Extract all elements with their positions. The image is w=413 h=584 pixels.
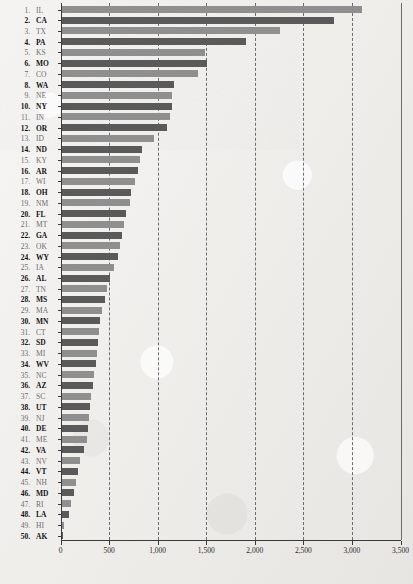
- y-axis-tick: [58, 461, 61, 462]
- bar-KY: [62, 156, 141, 163]
- bar-MS: [62, 296, 106, 303]
- state-label-MA: MA: [36, 307, 56, 315]
- state-label-OR: OR: [36, 125, 56, 133]
- bar-UT: [62, 403, 90, 410]
- y-axis-tick: [58, 364, 61, 365]
- y-axis-tick: [58, 353, 61, 354]
- x-axis-label-3500: 3,500: [392, 547, 409, 555]
- rank-label-29: 29.: [8, 307, 30, 315]
- rank-label-32: 32.: [8, 339, 30, 347]
- state-label-VA: VA: [36, 447, 56, 455]
- y-axis-tick: [58, 128, 61, 129]
- x-axis-label-500: 500: [103, 547, 114, 555]
- y-axis-tick: [58, 278, 61, 279]
- rank-label-43: 43.: [8, 458, 30, 466]
- y-axis-tick: [58, 257, 61, 258]
- state-label-ND: ND: [36, 146, 56, 154]
- rank-label-4: 4.: [8, 39, 30, 47]
- state-label-PA: PA: [36, 39, 56, 47]
- rank-label-3: 3.: [8, 28, 30, 36]
- bar-MI: [62, 350, 98, 357]
- y-axis-tick: [58, 289, 61, 290]
- rank-label-10: 10.: [8, 103, 30, 111]
- y-axis-tick: [58, 10, 61, 11]
- x-axis-tick-3500: [401, 541, 402, 545]
- state-label-NH: NH: [36, 479, 56, 487]
- bar-ME: [62, 436, 87, 443]
- rank-label-14: 14.: [8, 146, 30, 154]
- bar-MT: [62, 221, 124, 228]
- state-label-OK: OK: [36, 243, 56, 251]
- state-label-AK: AK: [36, 533, 56, 541]
- rank-label-11: 11.: [8, 114, 30, 122]
- y-axis-tick: [58, 20, 61, 21]
- y-axis-tick: [58, 192, 61, 193]
- gridline-3000: [352, 3, 353, 540]
- y-axis-tick: [58, 214, 61, 215]
- rank-label-41: 41.: [8, 436, 30, 444]
- rank-label-30: 30.: [8, 318, 30, 326]
- rank-label-50: 50.: [8, 533, 30, 541]
- rank-label-42: 42.: [8, 447, 30, 455]
- y-axis-tick: [58, 224, 61, 225]
- plot-right-border: [401, 3, 402, 540]
- rank-label-8: 8.: [8, 82, 30, 90]
- bar-HI: [62, 522, 65, 529]
- bar-NV: [62, 457, 80, 464]
- state-label-DE: DE: [36, 425, 56, 433]
- state-label-KY: KY: [36, 157, 56, 165]
- state-label-GA: GA: [36, 232, 56, 240]
- y-axis-tick: [58, 321, 61, 322]
- bar-DE: [62, 425, 88, 432]
- y-axis-tick: [58, 52, 61, 53]
- rank-label-27: 27.: [8, 286, 30, 294]
- rank-label-44: 44.: [8, 468, 30, 476]
- state-label-WV: WV: [36, 361, 56, 369]
- state-label-MI: MI: [36, 350, 56, 358]
- bar-WY: [62, 253, 118, 260]
- state-label-FL: FL: [36, 211, 56, 219]
- state-label-NM: NM: [36, 200, 56, 208]
- y-axis-tick: [58, 536, 61, 537]
- rank-label-22: 22.: [8, 232, 30, 240]
- bar-AK: [62, 532, 64, 539]
- rank-label-17: 17.: [8, 178, 30, 186]
- state-label-AL: AL: [36, 275, 56, 283]
- x-axis-tick-2500: [303, 541, 304, 545]
- y-axis-tick: [58, 149, 61, 150]
- state-label-OH: OH: [36, 189, 56, 197]
- rank-label-25: 25.: [8, 264, 30, 272]
- rank-label-9: 9.: [8, 92, 30, 100]
- x-axis-tick-0: [61, 541, 62, 545]
- y-axis-tick: [58, 106, 61, 107]
- y-axis-tick: [58, 42, 61, 43]
- y-axis-tick: [58, 267, 61, 268]
- rank-label-26: 26.: [8, 275, 30, 283]
- rank-label-7: 7.: [8, 71, 30, 79]
- bar-CT: [62, 328, 100, 335]
- state-label-VT: VT: [36, 468, 56, 476]
- rank-label-35: 35.: [8, 372, 30, 380]
- x-axis-tick-500: [109, 541, 110, 545]
- x-axis-tick-1000: [158, 541, 159, 545]
- gridline-2000: [255, 3, 256, 540]
- y-axis-tick: [58, 181, 61, 182]
- state-label-MO: MO: [36, 60, 56, 68]
- rank-label-2: 2.: [8, 17, 30, 25]
- state-label-UT: UT: [36, 404, 56, 412]
- bar-IA: [62, 264, 114, 271]
- y-axis-tick: [58, 493, 61, 494]
- rank-label-15: 15.: [8, 157, 30, 165]
- rank-label-39: 39.: [8, 415, 30, 423]
- rank-label-28: 28.: [8, 296, 30, 304]
- bar-RI: [62, 500, 71, 507]
- rank-label-18: 18.: [8, 189, 30, 197]
- y-axis-tick: [58, 138, 61, 139]
- bar-AR: [62, 167, 139, 174]
- state-label-AZ: AZ: [36, 382, 56, 390]
- rank-label-1: 1.: [8, 7, 30, 15]
- bar-CA: [62, 17, 335, 24]
- rank-label-47: 47.: [8, 501, 30, 509]
- rank-label-12: 12.: [8, 125, 30, 133]
- rank-label-23: 23.: [8, 243, 30, 251]
